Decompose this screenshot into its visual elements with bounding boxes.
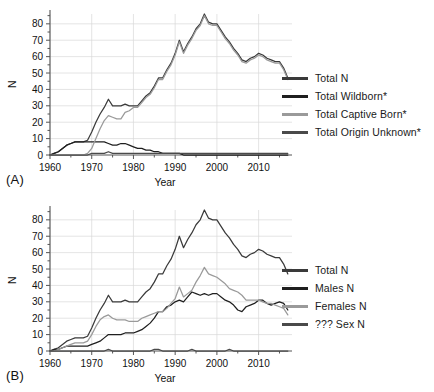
svg-text:20: 20 — [32, 117, 44, 128]
legend-label-unknown-sex: ??? Sex N — [315, 318, 365, 330]
legend-swatch-captive-born — [282, 113, 308, 116]
legend-label-total-n: Total N — [315, 72, 348, 84]
svg-text:10: 10 — [32, 329, 44, 340]
legend-item: Total Origin Unknown* — [282, 124, 434, 140]
legend-b: Total N Males N Females N ??? Sex N — [282, 262, 434, 334]
legend-label-wildborn: Total Wildborn* — [315, 90, 387, 102]
svg-text:0: 0 — [37, 150, 43, 161]
legend-swatch-females — [282, 305, 308, 308]
legend-item: ??? Sex N — [282, 316, 434, 332]
legend-label-origin-unknown: Total Origin Unknown* — [315, 126, 421, 138]
y-axis-title-b: N — [6, 276, 18, 284]
series-sex-n — [50, 349, 288, 351]
legend-label-total-n-b: Total N — [315, 264, 348, 276]
svg-text:50: 50 — [32, 264, 44, 275]
svg-text:40: 40 — [32, 280, 44, 291]
svg-text:30: 30 — [32, 296, 44, 307]
svg-text:1990: 1990 — [164, 162, 187, 173]
legend-item: Total Wildborn* — [282, 88, 434, 104]
y-axis-title-a: N — [6, 80, 18, 88]
svg-text:1960: 1960 — [39, 358, 62, 369]
line-chart-b: 0102030405060708019601970198019902000201… — [0, 196, 300, 392]
legend-a: Total N Total Wildborn* Total Captive Bo… — [282, 70, 434, 142]
svg-text:50: 50 — [32, 68, 44, 79]
svg-text:80: 80 — [32, 214, 44, 225]
svg-text:10: 10 — [32, 133, 44, 144]
legend-label-males: Males N — [315, 282, 354, 294]
legend-item: Males N — [282, 280, 434, 296]
svg-text:1980: 1980 — [122, 358, 145, 369]
svg-text:70: 70 — [32, 35, 44, 46]
svg-text:70: 70 — [32, 231, 44, 242]
svg-text:60: 60 — [32, 51, 44, 62]
plot-area-b: 0102030405060708019601970198019902000201… — [0, 196, 300, 392]
x-axis-title-b: Year — [105, 372, 225, 384]
svg-text:80: 80 — [32, 18, 44, 29]
series-total-n — [50, 14, 288, 155]
legend-item: Total N — [282, 262, 434, 278]
svg-text:1970: 1970 — [81, 358, 104, 369]
svg-text:20: 20 — [32, 313, 44, 324]
legend-item: Females N — [282, 298, 434, 314]
plot-area-a: 0102030405060708019601970198019902000201… — [0, 0, 300, 196]
legend-swatch-unknown-sex — [282, 323, 308, 326]
svg-text:40: 40 — [32, 84, 44, 95]
svg-text:0: 0 — [37, 346, 43, 357]
svg-text:60: 60 — [32, 247, 44, 258]
svg-text:2010: 2010 — [247, 358, 270, 369]
panel-label-a: (A) — [6, 172, 24, 187]
svg-text:1970: 1970 — [81, 162, 104, 173]
line-chart-a: 0102030405060708019601970198019902000201… — [0, 0, 300, 196]
legend-swatch-total-n-b — [282, 269, 308, 272]
panel-label-b: (B) — [6, 368, 24, 383]
legend-swatch-origin-unknown — [282, 131, 308, 134]
legend-swatch-males — [282, 287, 308, 290]
svg-text:30: 30 — [32, 100, 44, 111]
legend-label-captive-born: Total Captive Born* — [315, 108, 407, 120]
svg-text:2000: 2000 — [206, 162, 229, 173]
x-axis-title-a: Year — [105, 176, 225, 188]
svg-text:2000: 2000 — [206, 358, 229, 369]
legend-item: Total Captive Born* — [282, 106, 434, 122]
chart-panel-a: 0102030405060708019601970198019902000201… — [0, 0, 434, 196]
svg-text:1990: 1990 — [164, 358, 187, 369]
svg-text:1960: 1960 — [39, 162, 62, 173]
series-total-n — [50, 210, 288, 351]
svg-text:2010: 2010 — [247, 162, 270, 173]
series-females-n — [50, 267, 288, 351]
svg-text:1980: 1980 — [122, 162, 145, 173]
legend-swatch-total-n — [282, 77, 308, 80]
legend-item: Total N — [282, 70, 434, 86]
legend-label-females: Females N — [315, 300, 367, 312]
legend-swatch-wildborn — [282, 95, 308, 98]
series-total-captive-born — [50, 16, 288, 155]
